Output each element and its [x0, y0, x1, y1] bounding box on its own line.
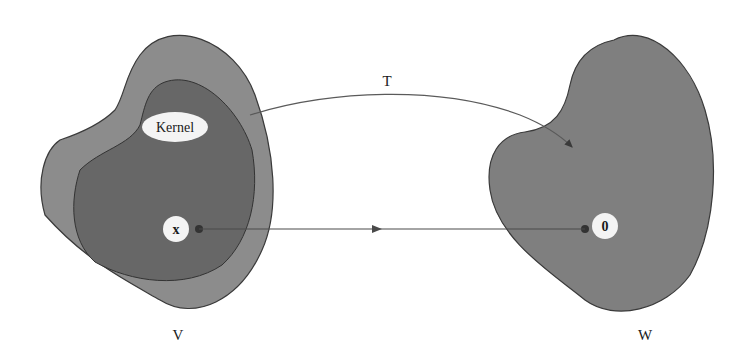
codomain-w-region	[489, 35, 713, 311]
kernel-region	[74, 80, 255, 281]
zero-vector-label: 0	[602, 219, 609, 234]
codomain-w-label: W	[638, 327, 653, 343]
domain-v-label: V	[173, 327, 184, 343]
kernel-to-zero-arrowhead-icon	[372, 225, 382, 233]
kernel-diagram: Kernel x 0 T V W	[0, 0, 756, 364]
vector-x-label: x	[173, 222, 180, 237]
mapping-t-label: T	[382, 73, 391, 89]
kernel-label: Kernel	[156, 120, 194, 135]
